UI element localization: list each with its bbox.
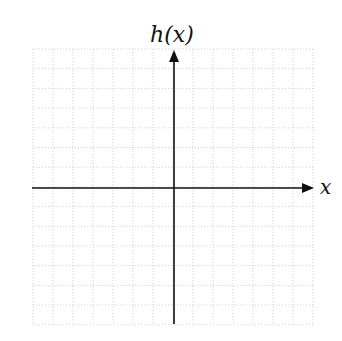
y-axis-label: h(x) [150, 22, 194, 47]
y-axis-arrow-icon [169, 50, 179, 62]
x-axis-arrow-icon [302, 183, 314, 193]
coordinate-grid: h(x) x [0, 0, 342, 341]
x-axis-label: x [320, 175, 331, 199]
grid-lines [33, 49, 313, 325]
